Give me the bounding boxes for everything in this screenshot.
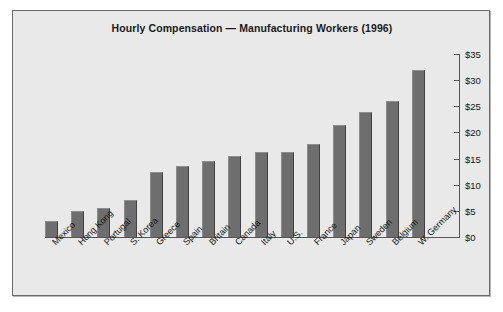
y-axis-label: $10 <box>465 179 481 190</box>
y-axis-tick <box>454 54 460 55</box>
chart-panel: Hourly Compensation — Manufacturing Work… <box>12 10 490 296</box>
y-axis-label: $35 <box>465 49 481 60</box>
bar <box>333 125 346 237</box>
chart-figure: Hourly Compensation — Manufacturing Work… <box>0 0 503 312</box>
y-axis-tick <box>454 159 460 160</box>
bar <box>228 156 241 237</box>
y-axis-label: $0 <box>465 232 476 243</box>
y-axis-tick <box>454 185 460 186</box>
bar <box>359 112 372 237</box>
y-axis-label: $30 <box>465 75 481 86</box>
bar <box>412 70 425 237</box>
y-axis-label: $15 <box>465 153 481 164</box>
y-axis-label: $25 <box>465 101 481 112</box>
chart-title: Hourly Compensation — Manufacturing Work… <box>13 22 491 34</box>
y-axis-tick <box>454 106 460 107</box>
bar <box>281 152 294 237</box>
y-axis-label: $5 <box>465 205 476 216</box>
bar <box>307 144 320 237</box>
y-axis-tick <box>454 237 460 238</box>
y-axis-label: $20 <box>465 127 481 138</box>
y-axis-tick <box>454 132 460 133</box>
bar <box>202 161 215 237</box>
y-axis-tick <box>454 80 460 81</box>
